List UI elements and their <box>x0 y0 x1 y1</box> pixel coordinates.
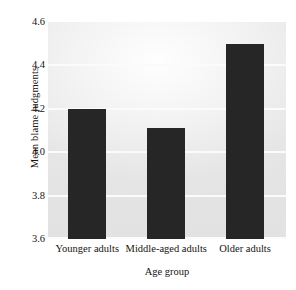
bar-chart-figure: Mean blame judgments 4.64.44.24.03.83.6 … <box>0 0 296 290</box>
plot-area <box>48 22 286 239</box>
x-tick-label: Older adults <box>190 242 296 255</box>
bar-1 <box>68 109 106 239</box>
x-axis-title: Age group <box>48 266 286 277</box>
bar-series <box>48 22 286 239</box>
bar-3 <box>226 44 264 239</box>
y-tick-label: 4.0 <box>32 146 45 157</box>
y-tick-label: 4.6 <box>32 16 45 27</box>
y-tick-label: 4.4 <box>32 59 45 70</box>
bar-2 <box>147 128 185 239</box>
x-axis-tick-labels: Younger adultsMiddle-aged adultsOlder ad… <box>48 242 286 258</box>
y-tick-label: 3.8 <box>32 190 45 201</box>
y-tick-label: 4.2 <box>32 103 45 114</box>
